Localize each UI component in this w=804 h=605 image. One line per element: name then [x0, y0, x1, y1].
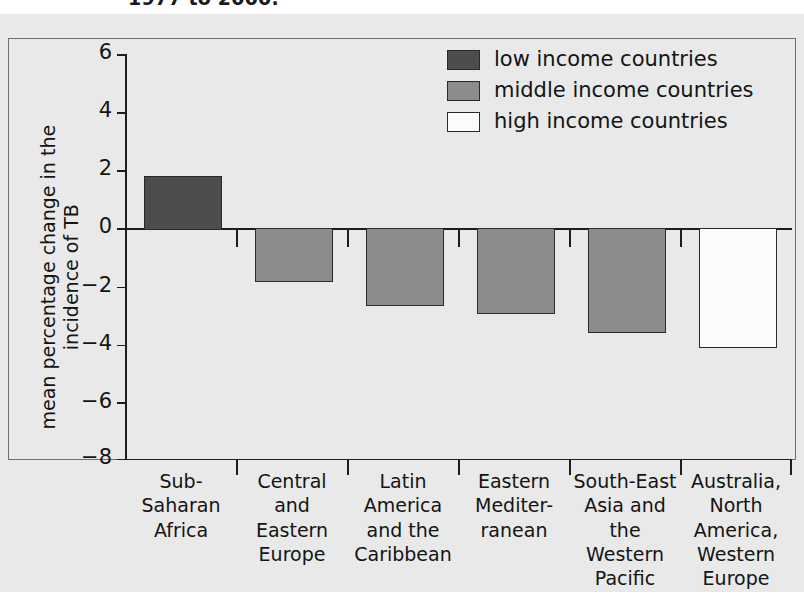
cat-line: Saharan — [128, 493, 234, 517]
category-separator-tick-4 — [569, 229, 571, 247]
cat-line: Central and — [239, 469, 345, 518]
legend-label-low-income: low income countries — [494, 49, 718, 70]
category-divider-6 — [790, 459, 792, 475]
legend-swatch-low-income — [447, 50, 480, 70]
y-tick-label-group: 6 4 2 0 −2 −4 −6 −8 — [58, 14, 112, 592]
legend-item-middle-income: middle income countries — [447, 76, 754, 105]
category-label-south-east-asia-and-the-western-pacific: South-East Asia and the Western Pacific — [570, 469, 680, 591]
category-divider-3 — [458, 459, 460, 475]
y-tick-6 — [117, 54, 126, 56]
category-separator-tick-2 — [347, 229, 349, 247]
y-tick-m8 — [117, 459, 126, 461]
y-tick-label-4: 4 — [68, 100, 112, 121]
y-axis-title-line-1: mean percentage change in the — [37, 112, 60, 442]
y-tick-m4 — [117, 345, 126, 347]
legend-item-low-income: low income countries — [447, 45, 754, 74]
bar-central-and-eastern-europe — [255, 228, 333, 282]
legend-swatch-middle-income — [447, 81, 480, 101]
title-strip: 1977 to 2000. — [0, 0, 804, 14]
cat-line: America — [350, 493, 456, 517]
y-tick-label-m6: −6 — [68, 391, 112, 412]
y-tick-2 — [117, 170, 126, 172]
cat-line: Australia, — [683, 469, 789, 493]
category-label-australia-north-america-western-europe: Australia, North America, Western Europe — [683, 469, 789, 591]
cat-line: Latin — [350, 469, 456, 493]
bar-australia-north-america-western-europe — [699, 228, 777, 348]
legend: low income countries middle income count… — [447, 45, 754, 138]
legend-item-high-income: high income countries — [447, 107, 754, 136]
category-label-eastern-mediterranean: Eastern Mediter- ranean — [461, 469, 567, 542]
category-separator-tick-5 — [680, 229, 682, 247]
category-label-central-and-eastern-europe: Central and Eastern Europe — [239, 469, 345, 566]
chart-title-clipped: 1977 to 2000. — [128, 0, 279, 9]
category-divider-1 — [236, 459, 238, 475]
cat-line: Pacific — [570, 566, 680, 590]
y-tick-label-0: 0 — [68, 216, 112, 237]
bar-sub-saharan-africa — [144, 176, 222, 230]
y-tick-label-m8: −8 — [68, 447, 112, 468]
cat-line: the Western — [570, 518, 680, 567]
cat-line: Eastern — [461, 469, 567, 493]
cat-line: Asia and — [570, 493, 680, 517]
category-label-sub-saharan-africa: Sub- Saharan Africa — [128, 469, 234, 542]
cat-line: North — [683, 493, 789, 517]
y-tick-m2 — [117, 287, 126, 289]
chart-panel: mean percentage change in the incidence … — [0, 14, 804, 592]
y-tick-4 — [117, 112, 126, 114]
bar-south-east-asia-and-the-western-pacific — [588, 228, 666, 333]
cat-line: Africa — [128, 518, 234, 542]
y-tick-m6 — [117, 402, 126, 404]
cat-line: America, — [683, 518, 789, 542]
chart-figure: 1977 to 2000. mean percentage change in … — [0, 0, 804, 605]
cat-line: and the — [350, 518, 456, 542]
y-tick-0 — [117, 228, 126, 230]
category-separator-tick-3 — [458, 229, 460, 247]
y-axis-line — [125, 54, 127, 460]
category-separator-tick-1 — [236, 229, 238, 247]
cat-line: Europe — [239, 542, 345, 566]
y-tick-label-m4: −4 — [68, 333, 112, 354]
cat-line: South-East — [570, 469, 680, 493]
y-tick-label-6: 6 — [68, 42, 112, 63]
cat-line: Mediter- — [461, 493, 567, 517]
cat-line: Caribbean — [350, 542, 456, 566]
category-divider-5 — [680, 459, 682, 475]
cat-line: Europe — [683, 566, 789, 590]
cat-line: Western — [683, 542, 789, 566]
bar-eastern-mediterranean — [477, 228, 555, 314]
bar-latin-america-and-the-caribbean — [366, 228, 444, 305]
y-tick-label-m2: −2 — [68, 275, 112, 296]
y-tick-label-2: 2 — [68, 158, 112, 179]
legend-label-high-income: high income countries — [494, 111, 728, 132]
cat-line: Eastern — [239, 518, 345, 542]
legend-label-middle-income: middle income countries — [494, 80, 754, 101]
category-divider-2 — [347, 459, 349, 475]
cat-line: ranean — [461, 518, 567, 542]
legend-swatch-high-income — [447, 112, 480, 132]
category-label-latin-america-and-the-caribbean: Latin America and the Caribbean — [350, 469, 456, 566]
cat-line: Sub- — [128, 469, 234, 493]
